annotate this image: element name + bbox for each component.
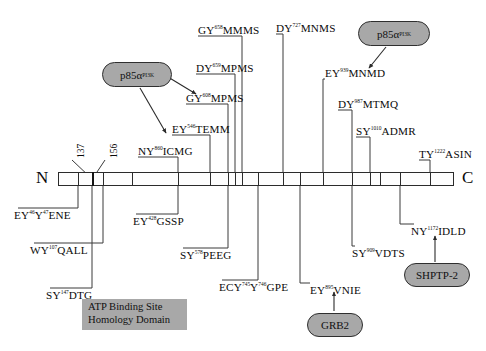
seq-post: ICMG	[163, 145, 193, 157]
seq-post: IDLD	[438, 225, 466, 237]
seq-pre: EY	[172, 123, 187, 135]
seq-pre: GY	[186, 92, 203, 104]
seq-pre: ECY	[219, 281, 242, 293]
seq-pre: WY	[30, 244, 49, 256]
backbone-tick	[300, 172, 301, 186]
site-ey895-vnie: EY895VNIE	[310, 285, 361, 296]
seq-mid: Y	[35, 209, 43, 221]
protein-backbone	[58, 172, 454, 186]
seq-pre: TY	[419, 148, 434, 160]
seq-pre: EY	[310, 284, 325, 296]
seq-pre: EY	[14, 209, 29, 221]
seq-post: ADMR	[381, 125, 415, 137]
badge-sup: PI3K	[142, 72, 154, 78]
seq-sup: 659	[213, 62, 221, 68]
atp-binding-site-domain: ATP Binding Site Homology Domain	[82, 299, 187, 330]
badge-p85a-pi3k-right[interactable]: p85αPI3K	[358, 21, 430, 46]
marker-156: 156	[109, 144, 119, 158]
site-sy578-peeg: SY578PEEG	[180, 250, 232, 261]
seq-pre: EY	[325, 67, 340, 79]
seq-post: MMMS	[223, 24, 260, 36]
backbone-tick	[352, 172, 353, 186]
badge-p85a-pi3k-left[interactable]: p85αPI3K	[102, 62, 172, 87]
badge-label: p85α	[377, 28, 399, 40]
site-ny1172-idld: NY1172IDLD	[411, 226, 466, 237]
backbone-tick-domain-start	[92, 172, 94, 186]
seq-pre: GY	[198, 24, 215, 36]
site-wy107-qall: WY107QALL	[30, 245, 88, 256]
seq-post: MPMS	[221, 62, 254, 74]
seq-sup: 1172	[428, 225, 439, 231]
seq-sup: 147	[61, 289, 69, 295]
seq-pre: DY	[276, 22, 293, 34]
seq-pre: SY	[356, 125, 371, 137]
seq-sup: 658	[215, 24, 223, 30]
seq-pre: DY	[338, 98, 355, 110]
seq-sup: 578	[195, 249, 203, 255]
seq-post: ENE	[48, 209, 70, 221]
seq-pre: DY	[196, 62, 213, 74]
site-ny860-icmg: NY860ICMG	[138, 146, 193, 157]
backbone-tick	[132, 172, 133, 186]
seq-post: MPMS	[211, 92, 244, 104]
backbone-tick	[103, 172, 104, 186]
seq-post: MNMD	[348, 67, 385, 79]
site-sy1010-admr: SY1010ADMR	[356, 126, 416, 137]
backbone-tick	[78, 172, 79, 186]
badge-label: p85α	[120, 69, 142, 81]
backbone-tick	[323, 172, 324, 186]
backbone-tick	[210, 172, 211, 186]
seq-post: VDTS	[375, 247, 405, 259]
site-gy658-mmms: GY658MMMS	[198, 25, 260, 36]
domain-line-2: Homology Domain	[88, 314, 170, 327]
backbone-tick	[228, 172, 229, 186]
seq-sup: 909	[367, 247, 375, 253]
seq-sup: 608	[203, 92, 211, 98]
backbone-tick	[258, 172, 259, 186]
seq-post: TEMM	[195, 123, 229, 135]
seq-pre: NY	[138, 145, 155, 157]
seq-pre: SY	[46, 289, 61, 301]
seq-sup: 727	[293, 22, 301, 28]
backbone-tick	[242, 172, 243, 186]
seq-post: GPE	[266, 281, 288, 293]
seq-post: ASIN	[445, 148, 472, 160]
site-ey46-y47-ene: EY46Y47ENE	[14, 210, 71, 221]
backbone-tick	[178, 172, 179, 186]
site-ecy745-y746-gpe: ECY745Y746GPE	[219, 282, 288, 293]
badge-label: SHPTP-2	[416, 269, 458, 281]
seq-pre: SY	[352, 247, 367, 259]
backbone-tick	[235, 172, 236, 186]
seq-pre: SY	[180, 249, 195, 261]
site-dy987-mtmq: DY987MTMQ	[338, 99, 398, 110]
site-ty1222-asin: TY1222ASIN	[419, 149, 472, 160]
backbone-tick	[370, 172, 371, 186]
site-ey428-gssp: EY428GSSP	[133, 216, 184, 227]
badge-grb2[interactable]: GRB2	[307, 313, 363, 337]
seq-pre: NY	[411, 225, 428, 237]
site-gy608-mpms: GY608MPMS	[186, 93, 244, 104]
protein-domain-diagram: N C 137 156 NY860ICMG EY546TEMM GY608MPM…	[0, 0, 486, 351]
backbone-tick	[430, 172, 431, 186]
domain-line-1: ATP Binding Site	[88, 301, 162, 314]
backbone-tick	[400, 172, 401, 186]
seq-post: QALL	[57, 244, 88, 256]
marker-137: 137	[76, 144, 86, 158]
c-terminus-label: C	[462, 168, 474, 188]
seq-sup: 1222	[434, 148, 445, 154]
seq-sup: 107	[49, 244, 57, 250]
backbone-tick	[283, 172, 284, 186]
site-ey546-temm: EY546TEMM	[172, 124, 230, 135]
badge-shptp2[interactable]: SHPTP-2	[404, 263, 470, 287]
seq-post: VNIE	[333, 284, 361, 296]
badge-sup: PI3K	[399, 31, 411, 37]
seq-sup: 987	[355, 98, 363, 104]
seq-post: PEEG	[203, 249, 232, 261]
seq-post: MTMQ	[363, 98, 399, 110]
backbone-tick	[380, 172, 381, 186]
badge-label: GRB2	[321, 319, 349, 331]
seq-post: MNMS	[301, 22, 336, 34]
n-terminus-label: N	[36, 168, 49, 188]
seq-post: GSSP	[156, 215, 184, 227]
site-sy909-vdts: SY909VDTS	[352, 248, 405, 259]
